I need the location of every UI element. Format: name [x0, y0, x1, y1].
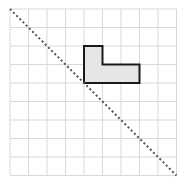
- reflection-diagram: [0, 0, 185, 191]
- l-shape: [84, 46, 140, 83]
- mirror-line: [10, 9, 177, 176]
